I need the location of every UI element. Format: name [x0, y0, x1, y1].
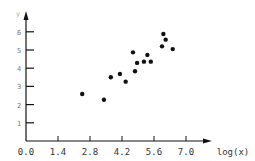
axis-labels: 0.01.42.84.25.67.0log(x)123456y: [16, 10, 249, 157]
axes: [24, 11, 213, 144]
x-tick-label: 0.0: [18, 147, 34, 157]
x-tick-label: 4.2: [114, 147, 130, 157]
y-tick-label: 1: [17, 120, 21, 128]
data-points: [80, 32, 175, 102]
y-tick-label: 2: [17, 102, 21, 110]
data-point: [160, 44, 164, 48]
data-point: [123, 79, 127, 83]
data-point: [118, 72, 122, 76]
y-tick-label: 3: [17, 83, 21, 91]
y-tick-label: 5: [17, 47, 21, 55]
data-point: [131, 50, 135, 54]
x-tick-label: 7.0: [178, 147, 194, 157]
x-tick-label: 1.4: [50, 147, 66, 157]
data-point: [145, 53, 149, 57]
data-point: [80, 92, 84, 96]
x-tick-label: 2.8: [82, 147, 98, 157]
data-point: [161, 32, 165, 36]
scatter-chart: 0.01.42.84.25.67.0log(x)123456y: [0, 0, 255, 161]
data-point: [109, 75, 113, 79]
y-tick-label: 4: [17, 65, 21, 73]
data-point: [102, 97, 106, 101]
data-point: [171, 47, 175, 51]
data-point: [163, 37, 167, 41]
y-axis-label: y: [16, 10, 20, 18]
data-point: [133, 69, 137, 73]
data-point: [142, 59, 146, 63]
x-axis-label: log(x): [217, 147, 250, 157]
data-point: [135, 61, 139, 65]
x-tick-label: 5.6: [146, 147, 162, 157]
y-axis-arrow-icon: [24, 11, 29, 20]
x-axis-arrow-icon: [203, 139, 212, 144]
y-tick-label: 6: [17, 29, 21, 37]
data-point: [149, 59, 153, 63]
